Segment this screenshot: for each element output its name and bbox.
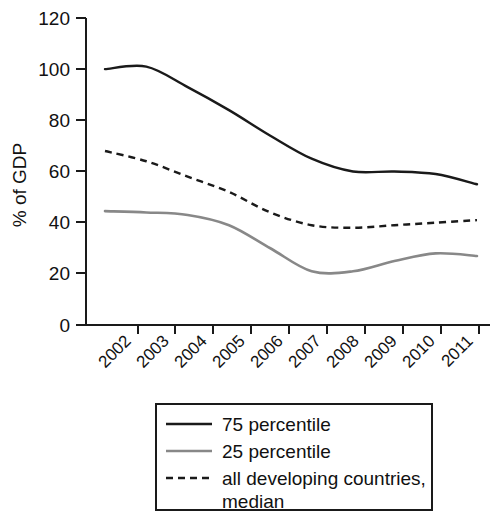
y-tick-label-40: 40 bbox=[49, 212, 70, 233]
y-tick-label-0: 0 bbox=[59, 315, 70, 336]
line-chart: 120 100 80 60 40 20 0 % of GDP 2002 2003… bbox=[0, 0, 496, 511]
y-tick-label-120: 120 bbox=[38, 8, 70, 29]
y-tick-label-80: 80 bbox=[49, 110, 70, 131]
y-tick-label-100: 100 bbox=[38, 59, 70, 80]
legend-label-75-percentile: 75 percentile bbox=[222, 414, 331, 435]
legend-label-25-percentile: 25 percentile bbox=[222, 441, 331, 462]
chart-figure: 120 100 80 60 40 20 0 % of GDP 2002 2003… bbox=[0, 0, 496, 511]
y-tick-label-60: 60 bbox=[49, 161, 70, 182]
chart-legend: 75 percentile 25 percentile all developi… bbox=[156, 404, 432, 511]
y-axis-title: % of GDP bbox=[9, 143, 30, 227]
legend-label-median-cont: median bbox=[222, 491, 284, 511]
y-tick-label-20: 20 bbox=[49, 263, 70, 284]
legend-label-median: all developing countries, bbox=[222, 468, 426, 489]
